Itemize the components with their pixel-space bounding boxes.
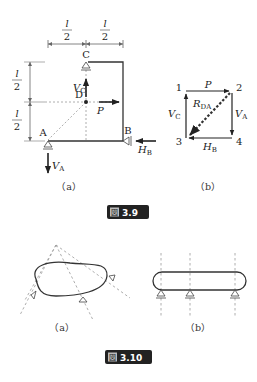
dim-left-bottom-num: l (15, 108, 18, 119)
dim-left-top-num: l (15, 68, 18, 79)
figure-3-9-panel-a: l 2 l 2 l 2 l 2 (12, 18, 156, 192)
force-hb-label: HB (137, 144, 152, 157)
figure-label-3-9: 図 3.9 (107, 205, 149, 219)
caption-3-9-b: （b） (195, 181, 221, 192)
top-dimension: l 2 l 2 (48, 18, 123, 48)
support-c-icon (81, 62, 91, 70)
support-icon (31, 275, 115, 302)
node-1: 1 (176, 82, 182, 93)
caption-3-9-a: （a） (56, 181, 82, 192)
dim-top-right-den: 2 (102, 31, 108, 42)
force-va-label: VA (52, 160, 65, 173)
svg-text:3.10: 3.10 (120, 353, 142, 363)
force-p-label: P (96, 105, 104, 116)
node-2: 2 (236, 82, 242, 93)
edge-vc-label: VC (168, 108, 181, 121)
body-outline-a (35, 262, 107, 296)
dim-top-left-num: l (65, 18, 68, 29)
figure-3-10-panel-a: （a） (20, 245, 130, 333)
node-3: 3 (176, 136, 182, 147)
support-icon (156, 290, 240, 298)
figure-canvas: l 2 l 2 l 2 l 2 (0, 0, 257, 382)
support-b-icon (123, 136, 131, 146)
body-outline-b (153, 272, 246, 290)
point-b-label: B (124, 125, 131, 136)
point-d-dot (84, 100, 88, 104)
figure-3-10-panel-b: （b） (153, 253, 246, 333)
caption-3-10-a: （a） (49, 322, 75, 333)
dim-top-right-num: l (103, 18, 106, 29)
svg-text:3.9: 3.9 (122, 208, 138, 218)
dim-left-bottom-den: 2 (14, 121, 20, 132)
svg-text:図: 図 (111, 209, 118, 217)
point-a-label: A (38, 127, 47, 138)
edge-hb-label: HB (202, 141, 217, 154)
svg-text:図: 図 (109, 354, 116, 362)
figure-label-3-10: 図 3.10 (105, 350, 152, 364)
node-4: 4 (236, 136, 242, 147)
edge-p-label: P (204, 79, 212, 90)
dim-top-left-den: 2 (64, 31, 70, 42)
figure-3-9-panel-b: 1 2 3 4 P VC VA HB RDA （b） (168, 79, 248, 192)
diag-rda-label: RDA (192, 98, 212, 111)
dim-left-top-den: 2 (14, 81, 20, 92)
support-a-icon (43, 141, 53, 149)
edge-va-label: VA (235, 108, 248, 121)
caption-3-10-b: （b） (185, 322, 211, 333)
point-c-label: C (82, 49, 90, 60)
